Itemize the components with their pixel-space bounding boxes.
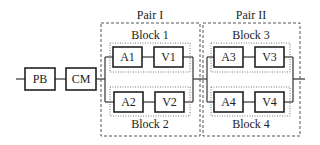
component-v4-label: V4: [262, 96, 277, 108]
component-a4-label: A4: [221, 96, 236, 108]
block-3-label: Block 3: [232, 29, 270, 41]
component-v1-label: V1: [161, 51, 176, 63]
block-1-label: Block 1: [131, 29, 169, 41]
component-a1-label: A1: [120, 51, 135, 63]
component-a2-label: A2: [121, 96, 136, 108]
component-v3-label: V3: [262, 51, 277, 63]
component-pb-label: PB: [33, 73, 48, 85]
pair-1-label: Pair I: [137, 9, 163, 21]
component-cm-label: CM: [72, 73, 91, 85]
component-a3-label: A3: [221, 51, 236, 63]
component-v2-label: V2: [162, 96, 177, 108]
pair-2-label: Pair II: [236, 9, 266, 21]
block-4-label: Block 4: [232, 118, 270, 130]
block-2-label: Block 2: [131, 118, 169, 130]
